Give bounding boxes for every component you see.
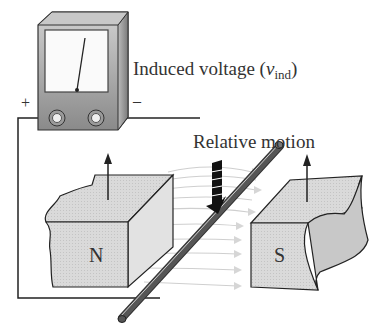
positive-terminal-icon [49, 110, 65, 126]
south-pole-label: S [274, 244, 285, 267]
north-pole-label: N [89, 244, 103, 267]
diagram-canvas [0, 0, 378, 335]
north-magnet [45, 175, 173, 287]
voltmeter [38, 12, 128, 130]
south-magnet [251, 176, 368, 290]
negative-terminal-icon [88, 110, 104, 126]
meter-dial [45, 30, 108, 92]
relative-motion-label: Relative motion [193, 131, 315, 153]
induced-voltage-label: Induced voltage (vind) [133, 58, 297, 83]
positive-terminal-label: + [21, 94, 30, 112]
negative-terminal-label: – [133, 92, 141, 110]
